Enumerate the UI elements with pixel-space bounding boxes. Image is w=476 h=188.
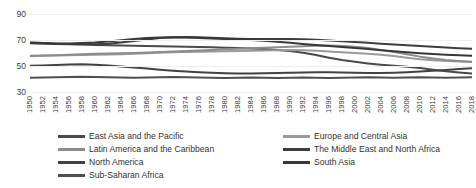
x-tick-1960: 1960 xyxy=(91,96,99,113)
x-axis-labels: 1950195219541956195819601962196419661968… xyxy=(30,96,472,130)
x-tick-2012: 2012 xyxy=(429,96,437,113)
x-tick-2000: 2000 xyxy=(351,96,359,113)
x-tick-1976: 1976 xyxy=(195,96,203,113)
legend-swatch-icon xyxy=(58,148,85,151)
legend-label: Sub-Saharan Africa xyxy=(89,171,164,180)
plot-area: 30507090 xyxy=(0,0,474,96)
gridline-30 xyxy=(30,92,472,93)
x-tick-1990: 1990 xyxy=(286,96,294,113)
gridline-70 xyxy=(30,40,472,41)
legend-label: East Asia and the Pacific xyxy=(89,132,184,141)
gridline-50 xyxy=(30,66,472,67)
x-tick-1992: 1992 xyxy=(299,96,307,113)
x-tick-1980: 1980 xyxy=(221,96,229,113)
legend-label: North America xyxy=(89,158,143,167)
legend-column-left: East Asia and the PacificLatin America a… xyxy=(58,130,214,182)
x-tick-1978: 1978 xyxy=(208,96,216,113)
legend-item[interactable]: North America xyxy=(58,156,214,169)
x-tick-1986: 1986 xyxy=(260,96,268,113)
legend-item[interactable]: The Middle East and North Africa xyxy=(283,143,440,156)
legend-item[interactable]: Sub-Saharan Africa xyxy=(58,169,214,182)
x-tick-1998: 1998 xyxy=(338,96,346,113)
legend-swatch-icon xyxy=(283,161,310,164)
legend-label: South Asia xyxy=(314,158,355,167)
x-tick-2014: 2014 xyxy=(442,96,450,113)
x-tick-1964: 1964 xyxy=(117,96,125,113)
legend-label: Europe and Central Asia xyxy=(314,132,407,141)
legend-swatch-icon xyxy=(283,135,310,138)
y-tick-90: 90 xyxy=(2,10,26,19)
x-tick-1982: 1982 xyxy=(234,96,242,113)
legend-label: Latin America and the Caribbean xyxy=(89,145,214,154)
x-tick-1952: 1952 xyxy=(39,96,47,113)
y-tick-70: 70 xyxy=(2,36,26,45)
x-tick-1968: 1968 xyxy=(143,96,151,113)
legend-column-right: Europe and Central AsiaThe Middle East a… xyxy=(283,130,440,169)
y-tick-30: 30 xyxy=(2,88,26,97)
chart-legend: East Asia and the PacificLatin America a… xyxy=(0,130,474,188)
x-tick-2002: 2002 xyxy=(364,96,372,113)
x-tick-1950: 1950 xyxy=(26,96,34,113)
gridline-90 xyxy=(30,14,472,15)
x-tick-1972: 1972 xyxy=(169,96,177,113)
x-tick-1956: 1956 xyxy=(65,96,73,113)
series-line xyxy=(30,45,472,61)
series-line xyxy=(30,77,472,78)
y-tick-50: 50 xyxy=(2,62,26,71)
legend-item[interactable]: Latin America and the Caribbean xyxy=(58,143,214,156)
legend-label: The Middle East and North Africa xyxy=(314,145,440,154)
x-tick-2004: 2004 xyxy=(377,96,385,113)
y-axis-labels: 30507090 xyxy=(0,0,26,96)
x-tick-1966: 1966 xyxy=(130,96,138,113)
legend-swatch-icon xyxy=(58,161,85,164)
x-tick-1994: 1994 xyxy=(312,96,320,113)
x-tick-1974: 1974 xyxy=(182,96,190,113)
x-tick-1984: 1984 xyxy=(247,96,255,113)
x-tick-2016: 2016 xyxy=(455,96,463,113)
x-tick-1958: 1958 xyxy=(78,96,86,113)
x-tick-1954: 1954 xyxy=(52,96,60,113)
x-tick-2018: 2018 xyxy=(468,96,476,113)
x-tick-1962: 1962 xyxy=(104,96,112,113)
x-tick-1988: 1988 xyxy=(273,96,281,113)
legend-item[interactable]: South Asia xyxy=(283,156,440,169)
legend-swatch-icon xyxy=(58,135,85,138)
x-tick-2010: 2010 xyxy=(416,96,424,113)
x-tick-1970: 1970 xyxy=(156,96,164,113)
legend-swatch-icon xyxy=(58,174,85,177)
legend-swatch-icon xyxy=(283,148,310,151)
x-tick-2006: 2006 xyxy=(390,96,398,113)
x-tick-1996: 1996 xyxy=(325,96,333,113)
legend-item[interactable]: East Asia and the Pacific xyxy=(58,130,214,143)
legend-item[interactable]: Europe and Central Asia xyxy=(283,130,440,143)
x-tick-2008: 2008 xyxy=(403,96,411,113)
